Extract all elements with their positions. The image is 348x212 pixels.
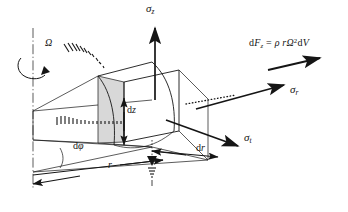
hatch-leader-upper: [64, 43, 104, 68]
formula-omega: Ω: [286, 37, 293, 48]
dphi-variable: φ: [78, 140, 84, 151]
formula-rho: ρ: [275, 37, 280, 48]
dr-variable: r: [201, 142, 205, 153]
dphi-angle-arc: [60, 148, 63, 168]
dfz-arrow: [268, 58, 320, 70]
rotating-disc-stress-diagram: σz σr σt Ω dz dr dφ r dFz = ρ rΩ2dV: [0, 0, 348, 212]
formula-dV-V: V: [303, 37, 309, 48]
sector-base-plane: [33, 140, 208, 172]
diagram-canvas: [0, 0, 348, 212]
formula-equals: =: [266, 37, 272, 48]
dphi-label: dφ: [73, 141, 84, 151]
omega-label: Ω: [45, 38, 52, 48]
dz-variable: z: [132, 104, 136, 115]
rotation-arrow-icon: [18, 58, 50, 79]
sigma-z-subscript: z: [151, 7, 154, 16]
r-label: r: [108, 160, 112, 170]
sigma-r-label: σr: [290, 84, 298, 97]
sigma-t-label: σt: [244, 132, 252, 145]
sigma-r-arrow: [196, 85, 284, 109]
dr-label: dr: [196, 143, 205, 153]
sigma-t-subscript: t: [249, 136, 251, 145]
dz-label: dz: [127, 105, 136, 115]
shaded-inner-face: [98, 76, 124, 143]
formula-F-subscript: z: [261, 42, 264, 49]
r-dimension: [33, 160, 163, 184]
sigma-z-label: σz: [146, 3, 154, 16]
sigma-r-subscript: r: [295, 88, 298, 97]
centrifugal-force-equation: dFz = ρ rΩ2dV: [249, 38, 309, 50]
